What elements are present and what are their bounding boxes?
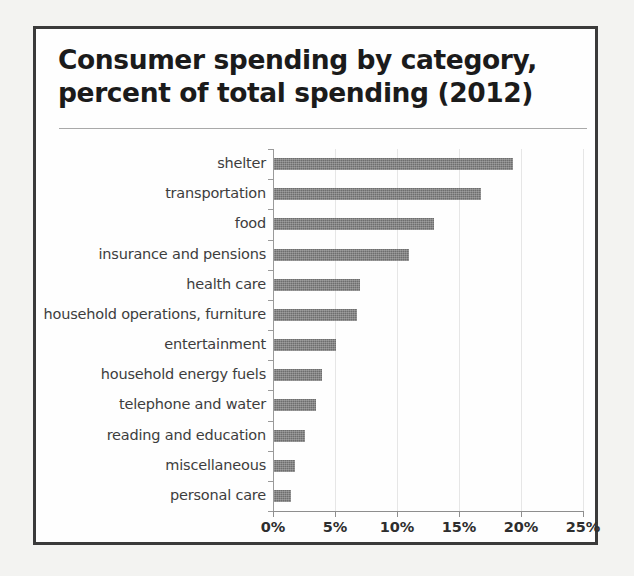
category-tick	[268, 270, 273, 271]
category-label-household-energy-fuels: household energy fuels	[101, 366, 266, 382]
category-label-shelter: shelter	[217, 155, 266, 171]
category-tick	[268, 179, 273, 180]
category-label-insurance-and-pensions: insurance and pensions	[98, 246, 266, 262]
chart-title: Consumer spending by category, percent o…	[58, 43, 583, 109]
value-tick-label-25%: 25%	[559, 519, 607, 535]
category-tick	[268, 240, 273, 241]
category-tick	[268, 481, 273, 482]
category-label-transportation: transportation	[165, 185, 266, 201]
category-tick	[268, 421, 273, 422]
gridline-25%	[583, 149, 584, 511]
value-axis-tick-labels: 0%5%10%15%20%25%	[273, 519, 603, 543]
category-tick	[268, 209, 273, 210]
gridline-20%	[521, 149, 522, 511]
bar-entertainment	[274, 339, 336, 351]
category-label-household-operations-furniture: household operations, furniture	[44, 306, 266, 322]
category-label-telephone-and-water: telephone and water	[119, 396, 266, 412]
category-label-personal-care: personal care	[170, 487, 266, 503]
chart-title-line-2: percent of total spending (2012)	[58, 76, 583, 109]
value-tick-0%	[273, 511, 274, 517]
bar-household-energy-fuels	[274, 369, 322, 381]
bar-food	[274, 218, 434, 230]
bar-household-operations-furniture	[274, 309, 357, 321]
title-divider	[59, 128, 587, 129]
gridline-10%	[397, 149, 398, 511]
page-background: Consumer spending by category, percent o…	[0, 0, 634, 576]
value-tick-label-10%: 10%	[373, 519, 421, 535]
value-tick-10%	[397, 511, 398, 517]
category-tick	[268, 300, 273, 301]
chart-plot-region: sheltertransportationfoodinsurance and p…	[36, 139, 595, 544]
bar-reading-and-education	[274, 430, 305, 442]
value-tick-label-15%: 15%	[435, 519, 483, 535]
bar-personal-care	[274, 490, 291, 502]
value-tick-20%	[521, 511, 522, 517]
bars-and-axes	[273, 149, 583, 511]
bar-transportation	[274, 188, 481, 200]
chart-title-line-1: Consumer spending by category,	[58, 43, 583, 76]
category-tick	[268, 149, 273, 150]
category-label-health-care: health care	[186, 276, 266, 292]
value-tick-5%	[335, 511, 336, 517]
value-tick-25%	[583, 511, 584, 517]
bar-miscellaneous	[274, 460, 295, 472]
bar-shelter	[274, 158, 513, 170]
value-axis-line	[273, 149, 274, 511]
bar-insurance-and-pensions	[274, 249, 409, 261]
category-tick	[268, 360, 273, 361]
category-tick	[268, 390, 273, 391]
bar-telephone-and-water	[274, 399, 316, 411]
value-tick-15%	[459, 511, 460, 517]
category-label-entertainment: entertainment	[164, 336, 266, 352]
gridline-5%	[335, 149, 336, 511]
value-tick-label-0%: 0%	[249, 519, 297, 535]
figure-canvas: Consumer spending by category, percent o…	[36, 29, 595, 542]
bar-health-care	[274, 279, 360, 291]
category-axis-labels: sheltertransportationfoodinsurance and p…	[36, 149, 266, 511]
category-tick	[268, 330, 273, 331]
category-tick	[268, 451, 273, 452]
category-label-reading-and-education: reading and education	[107, 427, 266, 443]
value-tick-label-20%: 20%	[497, 519, 545, 535]
gridline-15%	[459, 149, 460, 511]
category-label-food: food	[235, 215, 266, 231]
category-label-miscellaneous: miscellaneous	[165, 457, 266, 473]
category-axis-line	[273, 511, 583, 512]
figure-frame: Consumer spending by category, percent o…	[33, 26, 598, 545]
value-tick-label-5%: 5%	[311, 519, 359, 535]
